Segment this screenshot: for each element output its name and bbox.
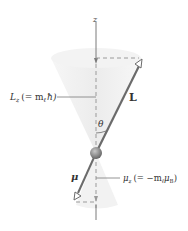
- theta-label: θ: [98, 119, 104, 129]
- muz-label: μz(= −mℓμB): [123, 173, 177, 184]
- mu-vector-label: μ: [71, 171, 78, 182]
- z-axis-label: z: [92, 15, 98, 24]
- lower-cone: [76, 153, 118, 209]
- L-vector-label: L: [129, 91, 137, 104]
- electron-sphere: [90, 147, 102, 159]
- angular-momentum-diagram: z L θ μ Lz(= mℓħ) μz(= −mℓμB): [0, 0, 188, 231]
- Lz-label: Lz(= mℓħ): [9, 92, 57, 103]
